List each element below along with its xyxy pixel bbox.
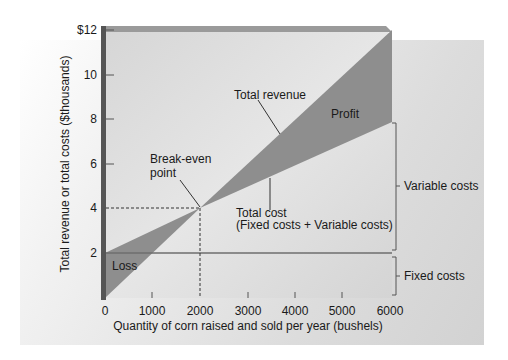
x-axis-title: Quantity of corn raised and sold per yea… (113, 319, 382, 333)
variable-costs-label: Variable costs (404, 179, 478, 193)
x-tick-label: 2000 (187, 304, 214, 318)
x-tick-label: 5000 (329, 304, 356, 318)
x-tick-label: 1000 (139, 304, 166, 318)
break-even-chart: $12 10 8 6 4 2 0 1000 2000 3000 4000 500… (0, 0, 508, 360)
y-tick-label: 8 (90, 112, 97, 126)
total-revenue-label: Total revenue (234, 88, 306, 102)
y-tick-label: 6 (90, 157, 97, 171)
y-axis-title: Total revenue or total costs ($thousands… (58, 56, 72, 273)
x-tick-label: 0 (102, 304, 109, 318)
y-tick-label: 2 (90, 246, 97, 260)
y-tick-label: $12 (77, 23, 97, 37)
y-tick-label: 4 (90, 201, 97, 215)
y-tick-label: 10 (84, 68, 98, 82)
total-cost-label-line2: (Fixed costs + Variable costs) (236, 218, 393, 232)
x-tick-label: 3000 (235, 304, 262, 318)
y-axis (101, 26, 106, 300)
fixed-costs-bracket (392, 257, 400, 295)
fixed-costs-label: Fixed costs (404, 269, 465, 283)
break-even-label-line2: point (150, 166, 177, 180)
x-tick-label: 6000 (377, 304, 404, 318)
loss-label: Loss (112, 259, 137, 273)
break-even-label-line1: Break-even (150, 152, 211, 166)
profit-label: Profit (331, 107, 360, 121)
x-tick-labels: 0 1000 2000 3000 4000 5000 6000 (102, 304, 404, 318)
y-tick-labels: $12 10 8 6 4 2 (77, 23, 97, 260)
variable-costs-bracket (392, 123, 400, 250)
x-tick-label: 4000 (282, 304, 309, 318)
